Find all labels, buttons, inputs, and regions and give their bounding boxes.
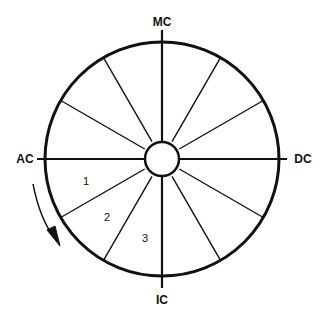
label-ac: AC xyxy=(16,152,34,166)
label-mc: MC xyxy=(153,15,172,29)
label-ic: IC xyxy=(156,293,168,307)
house-label-2: 2 xyxy=(104,211,110,223)
house-wheel-diagram: MC IC AC DC 1 2 3 xyxy=(0,0,327,318)
house-label-3: 3 xyxy=(142,232,148,244)
direction-arrow-icon xyxy=(33,184,60,246)
label-dc: DC xyxy=(294,152,312,166)
inner-circle xyxy=(145,142,179,176)
house-label-1: 1 xyxy=(83,175,89,187)
